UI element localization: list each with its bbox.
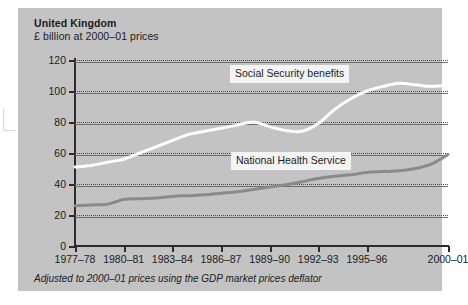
y-axis-tick-label: 80	[54, 116, 66, 128]
y-axis-tick-label: 60	[54, 147, 66, 159]
chart-footnote: Adjusted to 2000–01 prices using the GDP…	[34, 273, 322, 284]
x-axis-tick	[221, 246, 223, 252]
x-axis-tick-label: 1980–81	[103, 253, 144, 265]
x-axis-tick-label: 1995–96	[346, 253, 387, 265]
y-axis-tick-label: 20	[54, 209, 66, 221]
chart-panel: United Kingdom £ billion at 2000–01 pric…	[18, 8, 442, 291]
chart-subtitle: £ billion at 2000–01 prices	[34, 30, 159, 43]
y-axis-tick-label: 0	[60, 240, 66, 252]
series-label-social-security: Social Security benefits	[230, 65, 349, 83]
x-axis-tick-label: 2000–01	[428, 253, 468, 265]
chart-title-block: United Kingdom £ billion at 2000–01 pric…	[34, 17, 159, 43]
y-axis-tick-label: 40	[54, 178, 66, 190]
series-label-national-health: National Health Service	[231, 152, 351, 170]
crop-mark	[3, 108, 16, 131]
x-axis-tick-label: 1983–84	[152, 253, 193, 265]
page-title: United Kingdom	[34, 17, 159, 30]
x-axis-tick-label: 1989–90	[249, 253, 290, 265]
y-axis-tick-label: 100	[48, 85, 66, 97]
x-axis-tick	[75, 246, 77, 252]
x-axis-tick	[448, 246, 450, 252]
x-axis-tick	[270, 246, 272, 252]
x-axis-tick-label: 1977–78	[55, 253, 96, 265]
x-axis-tick	[124, 246, 126, 252]
x-axis-tick-label: 1992–93	[298, 253, 339, 265]
x-axis-tick-label: 1986–87	[201, 253, 242, 265]
x-axis-tick	[172, 246, 174, 252]
x-axis-tick	[318, 246, 320, 252]
y-axis-tick-label: 120	[48, 54, 66, 66]
x-axis-tick	[367, 246, 369, 252]
